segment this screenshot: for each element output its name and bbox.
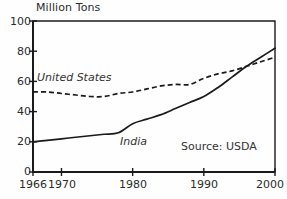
series-label-india: India xyxy=(120,135,147,148)
source-note: Source: USDA xyxy=(181,140,257,153)
series-label-united-states: United States xyxy=(37,71,112,84)
line-chart: Million Tons 100 80 60 40 20 0 1966 1970… xyxy=(0,0,287,199)
plot-area xyxy=(0,0,287,199)
